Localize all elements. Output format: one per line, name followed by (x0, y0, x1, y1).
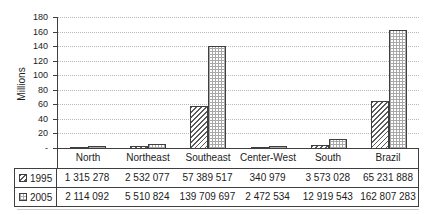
value-2005-southeast: 139 709 697 (177, 188, 237, 206)
gridline (58, 32, 419, 33)
table-row-2005: 20052 114 0925 510 824139 709 6972 472 5… (14, 187, 419, 206)
legend-year-label-2005: 2005 (30, 189, 52, 206)
table-row-1995: 19951 315 2782 532 07757 389 517340 9793… (14, 168, 419, 187)
category-label-south: South (298, 149, 358, 168)
gridline (58, 119, 419, 120)
y-tick-label: 160 (14, 27, 48, 37)
legend-swatch-2005-icon (19, 193, 27, 201)
bar-1995-southeast (190, 106, 208, 148)
y-tick-label: 20 (14, 128, 48, 138)
y-tick-label: 80 (14, 85, 48, 95)
category-label-center-west: Center-West (238, 149, 298, 168)
category-label-brazil: Brazil (358, 149, 418, 168)
y-tick-label: - (14, 143, 48, 153)
bar-1995-south (311, 145, 329, 148)
bar-1995-north (70, 147, 88, 148)
bar-1995-northeast (130, 146, 148, 148)
bar-2005-northeast (148, 144, 166, 148)
bar-1995-brazil (371, 101, 389, 148)
plot-area (57, 17, 419, 149)
y-tick-label: 120 (14, 56, 48, 66)
gridline (58, 75, 419, 76)
category-label-northeast: Northeast (118, 149, 178, 168)
value-2005-north: 2 114 092 (57, 188, 117, 206)
value-2005-center-west: 2 472 534 (238, 188, 298, 206)
legend-cell-2005: 2005 (15, 188, 57, 206)
bar-2005-south (329, 139, 347, 148)
y-tick-label: 100 (14, 70, 48, 80)
bar-2005-north (88, 146, 106, 148)
y-tick-label: 140 (14, 41, 48, 51)
table-shadow (17, 209, 419, 210)
value-2005-south: 12 919 543 (298, 188, 358, 206)
bar-1995-center-west (251, 147, 269, 148)
bar-2005-brazil (389, 30, 407, 148)
gridline (58, 46, 419, 47)
bar-2005-southeast (208, 46, 226, 148)
value-1995-center-west: 340 979 (238, 169, 298, 187)
population-bar-chart: Millions 18016014012010080604020- NorthN… (0, 0, 438, 215)
gridline (58, 133, 419, 134)
value-1995-southeast: 57 389 517 (177, 169, 237, 187)
legend-year-label-1995: 1995 (30, 170, 52, 187)
value-1995-brazil: 65 231 888 (358, 169, 418, 187)
y-tick-label: 40 (14, 114, 48, 124)
value-1995-north: 1 315 278 (57, 169, 117, 187)
value-1995-south: 3 573 028 (298, 169, 358, 187)
category-header-row: NorthNortheastSoutheastCenter-WestSouthB… (57, 149, 419, 168)
bar-2005-center-west (269, 146, 287, 148)
gridline (58, 90, 419, 91)
gridline (58, 17, 419, 18)
gridline (58, 104, 419, 105)
value-2005-northeast: 5 510 824 (117, 188, 177, 206)
category-label-southeast: Southeast (178, 149, 238, 168)
gridline (58, 61, 419, 62)
legend-cell-1995: 1995 (15, 169, 57, 187)
value-1995-northeast: 2 532 077 (117, 169, 177, 187)
y-tick-label: 60 (14, 99, 48, 109)
legend-swatch-1995-icon (19, 174, 27, 182)
data-table-rows: 19951 315 2782 532 07757 389 517340 9793… (14, 168, 419, 207)
category-label-north: North (58, 149, 118, 168)
value-2005-brazil: 162 807 283 (358, 188, 418, 206)
y-tick-label: 180 (14, 12, 48, 22)
